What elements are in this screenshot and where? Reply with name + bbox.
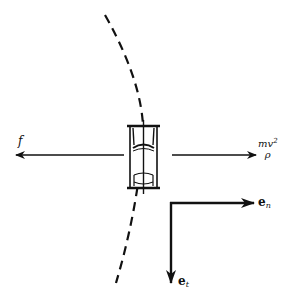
car-icon (127, 120, 160, 194)
friction-label: f (18, 135, 22, 147)
diagram-svg (0, 0, 290, 301)
tangential-unit-vector-label: et (178, 275, 189, 289)
force-numerator: mv2 (258, 138, 278, 149)
normal-unit-vector-label: en (258, 196, 271, 210)
force-denominator: ρ (258, 150, 278, 160)
centripetal-force-label: mv2 ρ (258, 138, 278, 160)
